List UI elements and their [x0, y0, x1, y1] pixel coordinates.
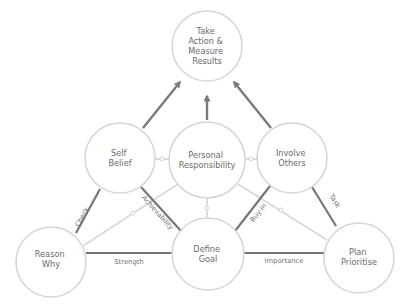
edge-label-strength: Strength [114, 258, 143, 266]
node-define-goal: Define Goal [172, 218, 244, 290]
node-take-action: Take Action & Measure Results [172, 11, 242, 81]
connector-marker-icon [205, 206, 209, 210]
connector-marker-icon [131, 211, 135, 215]
edge-label-importance: Importance [265, 257, 304, 265]
edge-label-achievability: Achievability [140, 194, 175, 232]
node-personal-responsibility: Personal Responsibility [169, 122, 245, 198]
arrow-self-belief-to-take-action [143, 82, 180, 128]
arrows-to-take-action [143, 82, 271, 128]
edge-label-buy-in: Buy-in [249, 202, 269, 224]
node-self-belief: Self Belief [85, 123, 155, 193]
edge-label-task: Task [327, 192, 342, 210]
arrow-involve-others-to-take-action [234, 82, 271, 128]
node-involve-others: Involve Others [257, 123, 327, 193]
goal-achievement-diagram: Check Achievability Strength Buy-in Task… [0, 0, 409, 308]
node-label: Involve Others [276, 148, 308, 168]
connector-marker-icon [249, 157, 253, 161]
edge-label-check: Check [74, 206, 91, 228]
connector-marker-icon [160, 157, 164, 161]
connector-marker-icon [279, 208, 283, 212]
node-reason-why: Reason Why [16, 227, 86, 297]
node-plan-prioritise: Plan Prioritise [324, 223, 394, 293]
